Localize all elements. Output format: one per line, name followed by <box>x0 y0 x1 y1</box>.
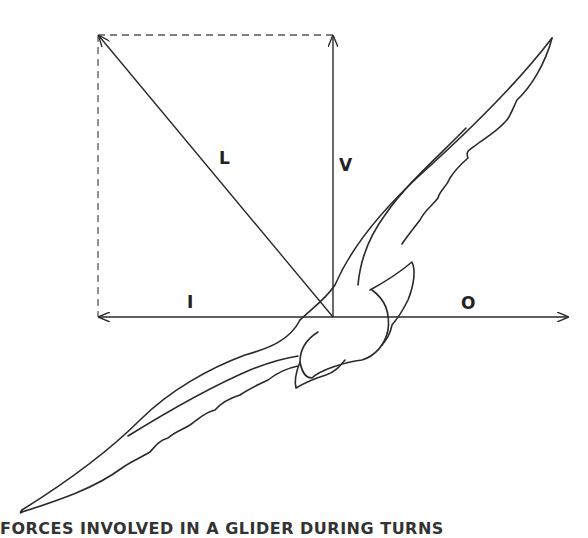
label-V: V <box>339 157 352 174</box>
label-O: O <box>461 295 475 312</box>
left-wing-tip <box>21 510 23 513</box>
left-wing-trailing-edge <box>22 366 298 512</box>
bird-outline <box>21 38 553 513</box>
label-L: L <box>219 150 230 167</box>
right-wing-leading-edge <box>300 38 552 320</box>
bird-body <box>300 290 388 378</box>
vector-L <box>99 36 333 317</box>
figure-caption: FORCES INVOLVED IN A GLIDER DURING TURNS <box>0 521 588 537</box>
force-vectors <box>99 36 568 317</box>
bird-tail <box>295 360 345 388</box>
label-I: I <box>187 294 193 311</box>
scapular-feather <box>370 262 414 345</box>
left-wing-leading-edge <box>22 320 300 510</box>
right-wing-trailing-edge <box>402 38 552 244</box>
